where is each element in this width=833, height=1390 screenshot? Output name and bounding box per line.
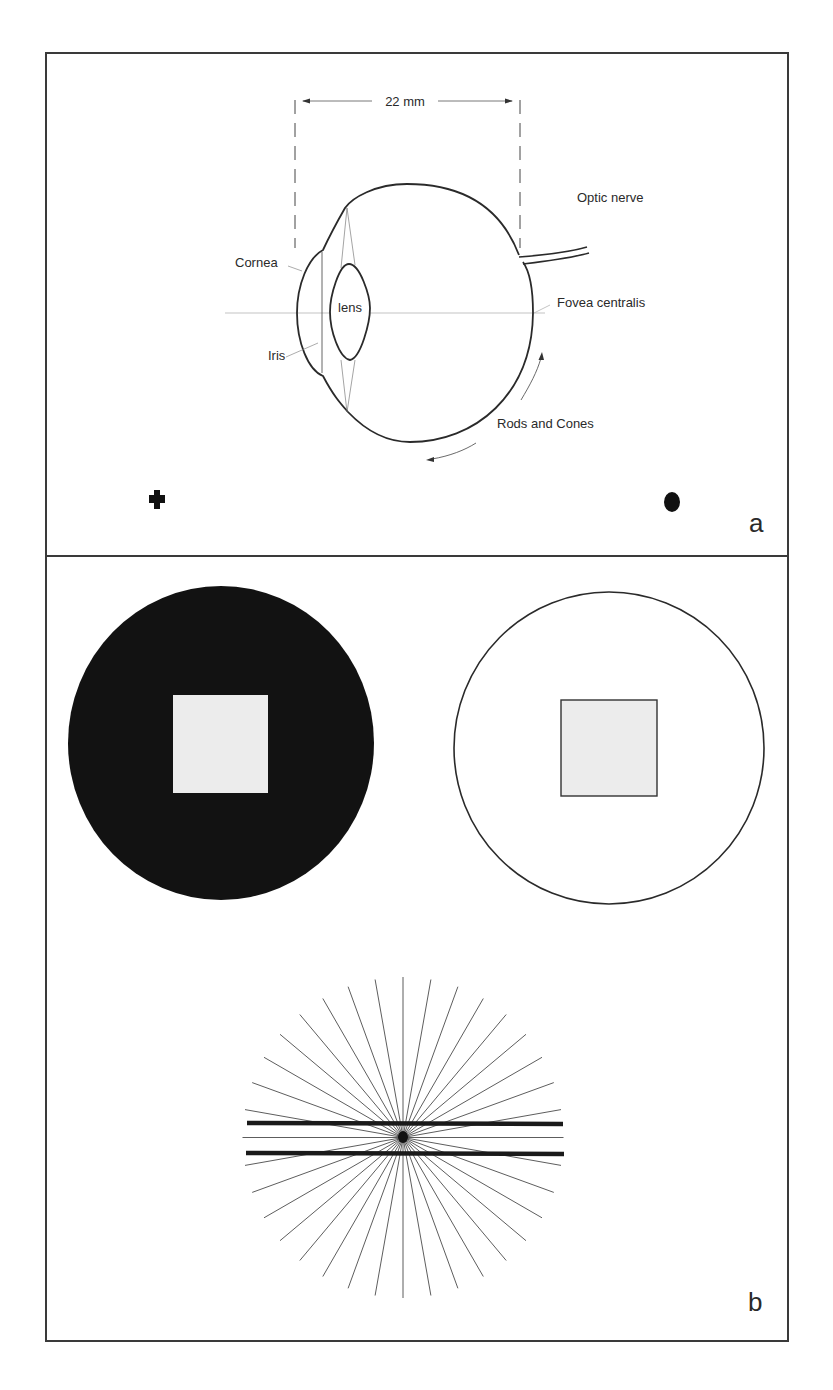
rods-cones-label: Rods and Cones: [497, 416, 594, 431]
gray-square-on-dark: [173, 695, 268, 793]
rods-arrow-left: [432, 443, 476, 459]
lower-parallel-bar: [246, 1153, 564, 1154]
fovea-label: Fovea centralis: [557, 295, 646, 310]
optic-nerve-label: Optic nerve: [577, 190, 643, 205]
cross-marker-icon: [149, 490, 165, 509]
panel-b: b: [68, 586, 764, 1317]
cornea-label: Cornea: [235, 255, 278, 270]
dot-marker-icon: [664, 492, 680, 512]
arrowhead-up-icon: [539, 352, 545, 360]
arrowhead-left-icon: [302, 99, 310, 104]
cornea-leader: [288, 266, 302, 271]
panel-a: 22 mm lens Optic nerve Cornea Fovea cent…: [149, 94, 764, 538]
upper-parallel-bar: [247, 1123, 563, 1124]
gray-square-on-light: [561, 700, 657, 796]
fovea-leader: [534, 305, 550, 313]
panel-b-letter: b: [748, 1287, 762, 1317]
panel-a-letter: a: [749, 508, 764, 538]
arrowhead-left-small-icon: [426, 457, 434, 462]
iris-label: Iris: [268, 348, 286, 363]
arrowhead-right-icon: [505, 99, 513, 104]
figure-svg: 22 mm lens Optic nerve Cornea Fovea cent…: [0, 0, 833, 1390]
lens-label: lens: [338, 300, 362, 315]
dimension-label: 22 mm: [385, 94, 425, 109]
radial-center-dot: [398, 1131, 408, 1143]
figure: 22 mm lens Optic nerve Cornea Fovea cent…: [0, 0, 833, 1390]
optic-nerve-lower: [523, 253, 589, 264]
